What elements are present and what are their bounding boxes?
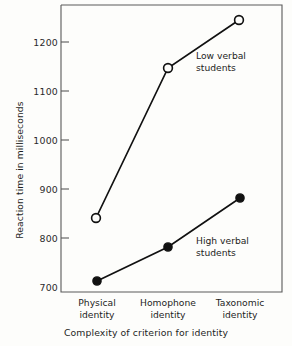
annotation-high-verbal-students: High verbal students — [196, 235, 249, 258]
data-point-low-taxonomic — [235, 16, 244, 25]
y-tick-marks — [61, 42, 69, 238]
x-axis-title: Complexity of criterion for identity — [0, 327, 292, 338]
data-point-low-homophone — [164, 64, 173, 73]
series-low-verbal-students — [92, 16, 244, 223]
x-tick-homophone-line1: Homophone — [140, 297, 196, 308]
x-tick-taxonomic-line2: identity — [198, 309, 282, 321]
data-point-high-homophone — [164, 243, 172, 251]
x-tick-physical-line1: Physical — [78, 297, 115, 308]
annotation-high-verbal-line1: High verbal — [196, 235, 249, 246]
data-point-low-physical — [92, 214, 101, 223]
x-tick-taxonomic-line1: Taxonomic — [216, 297, 265, 308]
annotation-low-verbal-line2: students — [196, 62, 246, 74]
annotation-low-verbal-line1: Low verbal — [196, 50, 246, 61]
plot-area — [0, 0, 292, 346]
data-point-high-taxonomic — [236, 194, 244, 202]
chart-figure: Reaction time in milliseconds 1200 1100 … — [0, 0, 292, 346]
annotation-low-verbal-students: Low verbal students — [196, 50, 246, 73]
data-point-high-physical — [93, 277, 101, 285]
x-tick-label-taxonomic-identity: Taxonomic identity — [198, 297, 282, 320]
annotation-high-verbal-line2: students — [196, 247, 249, 259]
